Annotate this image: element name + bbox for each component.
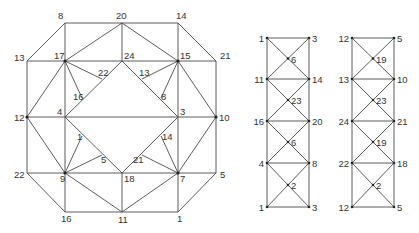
node-label: 7 — [180, 173, 185, 184]
graph-node — [287, 141, 290, 144]
graph-diagram: 8201413172415211243102291875161112216138… — [0, 0, 419, 233]
graph-node — [372, 184, 375, 187]
graph-node — [393, 162, 396, 165]
node-label: 6 — [291, 137, 296, 148]
node-label: 14 — [176, 10, 187, 21]
graph-node — [266, 206, 269, 209]
node-label: 22 — [338, 158, 349, 169]
graph-node — [308, 78, 311, 81]
node-label: 5 — [220, 169, 225, 180]
graph-node — [372, 99, 375, 102]
node-label: 1 — [259, 202, 264, 213]
node-label: 1 — [177, 213, 182, 224]
node-label: 24 — [338, 116, 349, 127]
node-label: 4 — [57, 106, 62, 117]
ladder-graph-left: 6236213111416204813 — [253, 33, 322, 213]
node-label: 20 — [312, 116, 323, 127]
graph-node — [266, 162, 269, 165]
node-label: 3 — [312, 202, 317, 213]
graph-node — [266, 120, 269, 123]
node-label: 23 — [291, 95, 302, 106]
graph-edge — [65, 23, 122, 61]
node-label: 2 — [376, 180, 381, 191]
node-label: 16 — [73, 91, 84, 102]
node-label: 5 — [397, 33, 402, 44]
ladder-graph-right: 1923192125131024212218125 — [338, 33, 407, 213]
node-label: 6 — [291, 54, 296, 65]
node-label: 13 — [139, 67, 150, 78]
graph-edge — [122, 61, 178, 117]
graph-edge — [65, 173, 122, 212]
graph-edge — [142, 155, 178, 173]
octagon-graph: 8201413172415211243102291875161112216138… — [14, 10, 231, 225]
node-label: 5 — [101, 154, 106, 165]
node-label: 1 — [259, 33, 264, 44]
node-label: 19 — [376, 137, 387, 148]
graph-edge — [178, 117, 216, 173]
node-label: 11 — [118, 214, 128, 225]
graph-node — [287, 184, 290, 187]
node-label: 18 — [124, 173, 135, 184]
node-label: 4 — [259, 158, 264, 169]
node-label: 12 — [338, 202, 349, 213]
node-label: 22 — [98, 67, 109, 78]
graph-edge — [65, 117, 122, 173]
node-label: 17 — [54, 50, 65, 61]
graph-node — [308, 120, 311, 123]
graph-node — [351, 78, 354, 81]
graph-node — [287, 57, 290, 60]
node-label: 12 — [14, 112, 25, 123]
node-label: 14 — [312, 74, 323, 85]
graph-node — [214, 115, 217, 118]
node-label: 15 — [180, 50, 191, 61]
graph-node — [393, 120, 396, 123]
node-label: 5 — [397, 202, 402, 213]
node-label: 9 — [60, 173, 65, 184]
node-label: 19 — [376, 54, 387, 65]
node-label: 3 — [180, 106, 185, 117]
graph-edge — [65, 155, 102, 173]
graph-edge — [122, 117, 178, 173]
node-label: 13 — [14, 52, 25, 63]
node-label: 11 — [254, 74, 264, 85]
node-label: 3 — [312, 33, 317, 44]
node-label: 23 — [376, 95, 387, 106]
graph-node — [351, 162, 354, 165]
node-label: 14 — [162, 131, 173, 142]
node-label: 10 — [397, 74, 408, 85]
graph-edge — [27, 117, 65, 173]
node-label: 21 — [220, 50, 231, 61]
graph-node — [351, 206, 354, 209]
graph-node — [372, 141, 375, 144]
graph-node — [393, 37, 396, 40]
graph-node — [266, 78, 269, 81]
graph-node — [308, 206, 311, 209]
node-label: 21 — [397, 116, 408, 127]
node-label: 8 — [161, 91, 166, 102]
node-label: 24 — [124, 50, 135, 61]
node-label: 21 — [133, 154, 144, 165]
graph-node — [372, 57, 375, 60]
graph-node — [351, 120, 354, 123]
graph-node — [393, 206, 396, 209]
graph-node — [266, 37, 269, 40]
node-label: 10 — [219, 112, 230, 123]
graph-node — [351, 37, 354, 40]
node-label: 20 — [116, 10, 127, 21]
node-label: 18 — [397, 158, 408, 169]
node-label: 12 — [338, 33, 349, 44]
node-label: 13 — [338, 74, 349, 85]
graph-node — [287, 99, 290, 102]
graph-node — [25, 115, 28, 118]
graph-edge — [65, 61, 122, 117]
node-label: 1 — [77, 131, 82, 142]
graph-node — [393, 78, 396, 81]
node-label: 16 — [253, 116, 264, 127]
node-label: 16 — [61, 213, 72, 224]
node-label: 8 — [312, 158, 317, 169]
node-label: 22 — [14, 169, 25, 180]
graph-node — [308, 37, 311, 40]
graph-edge — [65, 61, 102, 79]
graph-node — [308, 162, 311, 165]
node-label: 8 — [58, 10, 63, 21]
